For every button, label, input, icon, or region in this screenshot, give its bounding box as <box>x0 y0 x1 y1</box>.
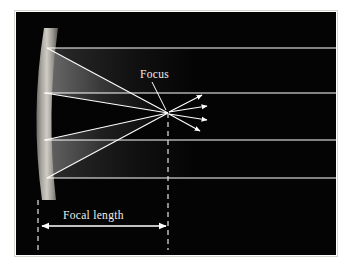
glow-band-top <box>46 48 196 93</box>
focus-label: Focus <box>140 68 169 80</box>
ray-diagram-svg: Focus Focal length <box>0 0 352 270</box>
glow-band-bottom <box>46 140 196 178</box>
figure-root: Focus Focal length <box>0 0 352 270</box>
focal-length-label: Focal length <box>63 209 124 222</box>
diagram-frame: Focus Focal length <box>0 0 352 270</box>
